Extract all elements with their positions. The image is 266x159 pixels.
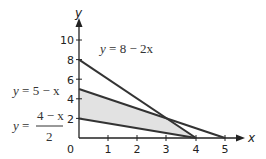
annotation-line1: y = 8 − 2x: [98, 41, 153, 56]
y-axis-label: y: [74, 6, 83, 20]
x-tick-label: 3: [163, 143, 170, 156]
shaded-region: [79, 89, 196, 138]
x-tick-label: 4: [193, 143, 200, 156]
svg-text:2: 2: [46, 129, 53, 144]
chart-svg: 1 2 3 4 5 0 2 4 6 8 10 y x y = 8 − 2x y …: [0, 0, 266, 159]
svg-text:=: =: [22, 118, 29, 133]
y-tick-label: 2: [67, 113, 74, 126]
x-tick-label: 2: [134, 143, 141, 156]
x-tick-label: 5: [222, 143, 229, 156]
svg-text:4 − x: 4 − x: [37, 108, 64, 123]
x-axis-label: x: [247, 131, 256, 145]
y-tick-label: 4: [67, 93, 74, 106]
y-tick-label: 8: [67, 54, 74, 67]
annotation-line2: y = 5 − x: [11, 83, 60, 98]
y-tick-label: 10: [60, 34, 74, 47]
y-tick-label: 6: [67, 74, 74, 87]
origin-label: 0: [67, 143, 74, 156]
chart: 1 2 3 4 5 0 2 4 6 8 10 y x y = 8 − 2x y …: [0, 0, 266, 159]
annotation-line3: y = 4 − x 2: [11, 108, 64, 144]
svg-text:y: y: [11, 118, 19, 133]
x-axis-arrow-icon: [236, 135, 245, 142]
x-tick-label: 1: [105, 143, 112, 156]
